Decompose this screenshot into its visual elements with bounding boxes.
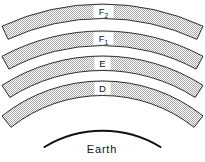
earth-label: Earth bbox=[87, 143, 117, 155]
band-e-label: E bbox=[99, 58, 105, 69]
ionosphere-layers-diagram: F2 F1 E D Earth bbox=[0, 0, 205, 162]
layer-d: D bbox=[2, 81, 203, 127]
band-d-label: D bbox=[99, 83, 106, 94]
earth: Earth bbox=[45, 131, 161, 155]
diagram-canvas: F2 F1 E D Earth bbox=[0, 0, 205, 162]
